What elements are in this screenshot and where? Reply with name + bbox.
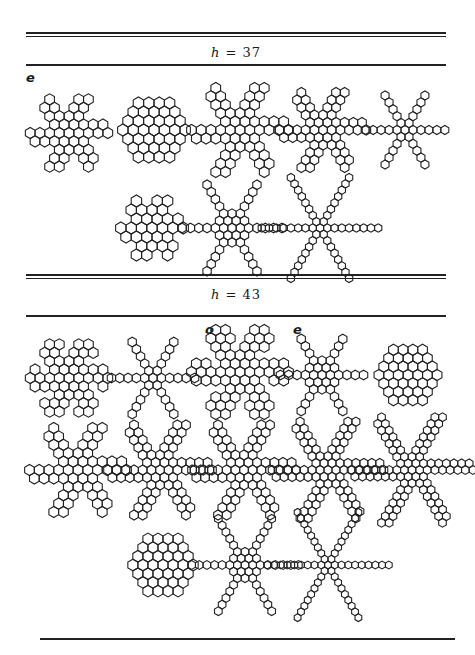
hexagon-cell — [30, 136, 40, 147]
hexagon-cell — [222, 510, 231, 520]
hexagon-cell — [433, 125, 441, 134]
hexagon-cell — [157, 373, 165, 383]
hexagon-cell — [425, 125, 433, 134]
hexagon-cell — [244, 223, 252, 233]
hexagon-cell — [381, 91, 389, 100]
hexagon-cell — [345, 561, 352, 569]
hexagon-cell — [201, 375, 211, 386]
hexagon-cell — [374, 419, 382, 428]
hexagon-cell — [186, 223, 194, 233]
hexagon-cell — [345, 224, 352, 232]
hexagon-cell — [352, 417, 360, 426]
hexagon-cell — [266, 420, 275, 430]
hexagon-cell — [302, 224, 309, 232]
hexagon-cell — [108, 473, 117, 483]
polyhex-figure — [152, 228, 153, 229]
hexagon-cell — [427, 459, 435, 468]
hexagon-cell — [132, 373, 140, 383]
hexagon-cell — [206, 91, 216, 102]
section-1-bottom-rule — [26, 64, 446, 66]
hexagon-cell — [97, 456, 107, 467]
hexagon-cell — [344, 417, 352, 426]
hexagon-cell — [170, 337, 178, 347]
hexagon-cell — [331, 224, 338, 232]
hexagon-cell — [381, 160, 389, 169]
hexagon-cell — [279, 358, 289, 369]
hexagon-cell — [355, 614, 362, 622]
hexagon-cell — [435, 459, 443, 468]
hexagon-cell — [292, 424, 300, 433]
hexagon-cell — [458, 459, 466, 468]
hexagon-cell — [450, 459, 458, 468]
hexagon-cell — [379, 561, 386, 569]
hexagon-cell — [88, 364, 98, 375]
hexagon-cell — [45, 406, 55, 417]
hexagon-cell — [288, 133, 297, 143]
hexagon-cell — [102, 498, 112, 509]
h-value: 43 — [243, 287, 262, 302]
hexagon-cell — [338, 561, 345, 569]
hexagon-cell — [385, 561, 392, 569]
hexagon-cell — [59, 506, 69, 517]
hexagon-cell — [295, 224, 302, 232]
polyhex-figure — [160, 470, 161, 471]
hexagon-cell — [439, 413, 447, 422]
hexagon-cell — [421, 91, 429, 100]
hexagon-cell — [257, 420, 266, 430]
hexagon-cell — [128, 409, 136, 419]
hexagon-cell — [186, 503, 195, 513]
hexagon-cell — [131, 249, 141, 261]
hexagon-cell — [211, 375, 221, 386]
hexagon-cell — [296, 472, 304, 481]
hexagon-cell — [201, 133, 211, 144]
polyhex-figure — [78, 470, 79, 471]
hexagon-cell — [359, 370, 367, 380]
hexagon-cell — [375, 224, 382, 232]
hexagon-cell — [195, 561, 203, 570]
section-2-label: h = 43 — [26, 287, 446, 302]
polyhex-figure — [328, 470, 329, 471]
hexagon-cell — [293, 370, 301, 380]
h-variable: h — [211, 287, 220, 302]
hexagon-cell — [409, 125, 417, 134]
hexagon-cell — [331, 561, 338, 569]
hexagon-cell — [142, 249, 152, 261]
hexagon-cell — [339, 334, 347, 344]
hexagon-cell — [84, 94, 94, 105]
hexagon-cell — [306, 163, 315, 173]
hexagon-cell — [352, 561, 359, 569]
hexagon-cell — [211, 166, 221, 177]
hexagon-cell — [88, 119, 98, 130]
hexagon-cell — [74, 406, 84, 417]
hexagon-cell — [360, 224, 367, 232]
hexagon-cell — [174, 373, 182, 383]
hexagon-cell — [125, 428, 134, 438]
hexagon-cell — [211, 561, 219, 570]
hexagon-cell — [221, 324, 231, 335]
hexagon-cell — [297, 406, 305, 416]
hexagon-cell — [45, 161, 55, 172]
h-variable: h — [211, 45, 220, 60]
hexagon-cell — [264, 561, 271, 569]
polyhex-figure — [244, 470, 245, 471]
hexagon-cell — [211, 133, 221, 144]
polyhex-figure — [322, 375, 323, 376]
equals: = — [220, 287, 242, 302]
hexagon-cell — [259, 116, 269, 127]
hexagon-cell — [30, 381, 40, 392]
hexagon-cell — [203, 223, 211, 233]
polyhex-figure — [154, 130, 155, 131]
hexagon-cell — [250, 408, 260, 419]
hexagon-cell — [218, 473, 227, 483]
hexagon-cell — [126, 204, 136, 216]
hexagon-cell — [280, 133, 289, 143]
equals: = — [220, 45, 242, 60]
hexagon-cell — [385, 518, 393, 527]
hexagon-cell — [287, 173, 294, 181]
hexagon-cell — [253, 180, 261, 190]
hexagon-cell — [39, 473, 49, 484]
hexagon-cell — [54, 406, 64, 417]
polyhex-figure — [328, 565, 329, 566]
hexagon-cell — [124, 373, 132, 383]
hexagon-cell — [269, 358, 279, 369]
